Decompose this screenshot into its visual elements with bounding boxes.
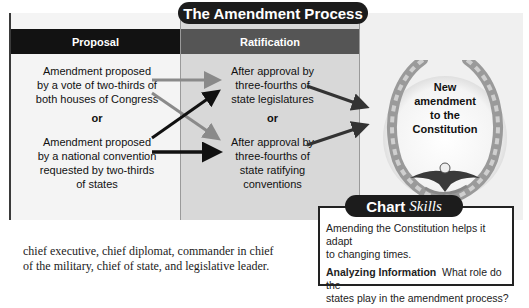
ratification-or: or [210,111,335,125]
chart-title: The Amendment Process [178,2,368,24]
body-paragraph: chief executive, chief diplomat, command… [23,244,313,274]
ratification-header: Ratification [181,29,359,54]
proposal-or: or [22,111,172,125]
chart-skills-question: Analyzing Information What role do the s… [326,266,512,305]
proposal-convention: Amendment proposed by a national convent… [22,135,172,191]
new-amendment-label: New amendment to the Constitution [395,80,495,136]
ratification-legislatures: After approval by three-fourths of state… [210,64,335,106]
proposal-header: Proposal [11,29,180,54]
proposal-congress: Amendment proposed by a vote of two-thir… [22,64,172,106]
chart-skills-text: Amending the Constitution helps it adapt… [326,222,512,308]
ratification-conventions: After approval by three-fourths of state… [210,135,335,191]
chart-skills-title: Chart Skills [345,195,463,217]
chart-skills-summary: Amending the Constitution helps it adapt… [326,222,512,261]
